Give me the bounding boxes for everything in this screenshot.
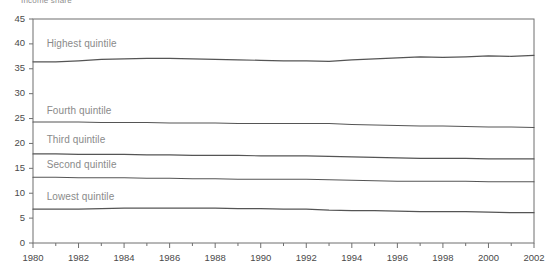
series-label-third-quintile: Third quintile [47,134,106,145]
series-label-lowest-quintile: Lowest quintile [47,191,115,202]
series-label-second-quintile: Second quintile [47,159,117,170]
y-axis-tick-label: 5 [1,212,25,223]
x-axis-tick-label: 1996 [377,252,417,263]
series-label-fourth-quintile: Fourth quintile [47,105,112,116]
x-axis-tick-label: 2002 [514,252,549,263]
series-label-highest-quintile: Highest quintile [47,38,117,49]
x-axis-tick-label: 1988 [195,252,235,263]
y-axis-tick-label: 0 [1,237,25,248]
y-axis-tick-label: 25 [1,112,25,123]
y-axis-tick-label: 15 [1,162,25,173]
x-axis-tick-label: 1990 [241,252,281,263]
x-axis-tick-label: 1992 [286,252,326,263]
y-axis-tick-label: 20 [1,137,25,148]
y-axis-tick-label: 30 [1,87,25,98]
y-axis-tick-label: 40 [1,37,25,48]
y-axis-tick-label: 10 [1,187,25,198]
x-axis-tick-label: 1980 [13,252,53,263]
x-axis-tick-label: 1982 [59,252,99,263]
x-axis-tick-label: 1998 [423,252,463,263]
y-axis-tick-label: 35 [1,62,25,73]
x-axis-tick-label: 2000 [468,252,508,263]
x-axis-tick-label: 1994 [332,252,372,263]
x-axis-tick-label: 1986 [150,252,190,263]
x-axis-tick-label: 1984 [104,252,144,263]
y-axis-tick-label: 45 [1,13,25,24]
